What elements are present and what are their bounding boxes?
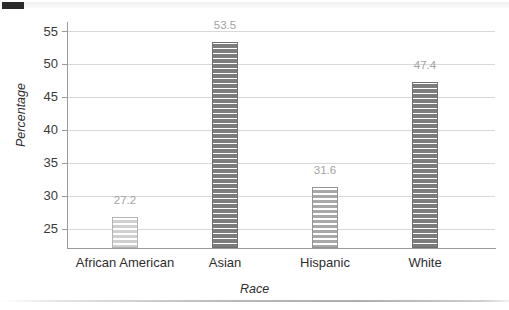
- y-axis-tick-labels: 55 50 45 40 35 30 25: [0, 0, 58, 300]
- category-label-african-american: African American: [75, 255, 175, 270]
- category-label-asian: Asian: [175, 255, 275, 270]
- bar-chart: 55 50 45 40 35 30 25 Percentage 27.2 53.…: [0, 0, 509, 300]
- y-tick-label: 25: [6, 222, 58, 235]
- y-tick-label: 50: [6, 57, 58, 70]
- x-axis-title: Race: [0, 282, 509, 296]
- x-axis-category-labels: African American Asian Hispanic White: [68, 0, 495, 300]
- y-axis-title: Percentage: [14, 70, 28, 160]
- category-label-white: White: [375, 255, 475, 270]
- y-tick-label: 30: [6, 189, 58, 202]
- category-label-hispanic: Hispanic: [275, 255, 375, 270]
- y-tick-label: 55: [6, 25, 58, 38]
- page-rule-divider: [0, 300, 509, 302]
